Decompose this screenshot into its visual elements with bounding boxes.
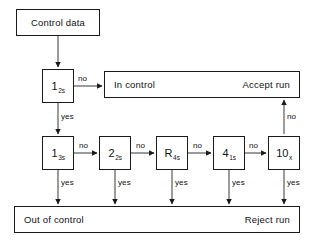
node-rule-4-1s: 41s	[213, 136, 245, 170]
node-in-control-accept-run: In control Accept run	[104, 71, 300, 98]
rule-1-3s-text: 13s	[52, 148, 65, 159]
rule-1-3s-base: 1	[52, 147, 58, 159]
edge-label-10-x-no: no	[287, 112, 296, 121]
rule-4-1s-text: 41s	[223, 148, 236, 159]
node-rule-r-4s: R4s	[156, 136, 188, 170]
node-rule-2-2s: 22s	[99, 136, 131, 170]
edge-label-r-4s-no: no	[193, 141, 202, 150]
rule-1-3s-sub: 3s	[58, 154, 65, 161]
out-of-control-label: Out of control	[24, 214, 84, 225]
edge-label-1-3s-yes: yes	[61, 178, 74, 187]
rule-1-2s-sub: 2s	[58, 87, 65, 94]
rule-4-1s-sub: 1s	[229, 154, 236, 161]
flowchart-canvas: Control data In control Accept run 12s 1…	[0, 0, 314, 248]
rule-r-4s-text: R4s	[165, 148, 180, 159]
edge-label-2-2s-no: no	[136, 141, 145, 150]
rule-4-1s-base: 4	[223, 147, 229, 159]
rule-1-2s-base: 1	[52, 80, 58, 92]
node-control-data: Control data	[16, 9, 100, 36]
node-rule-1-3s: 13s	[42, 136, 74, 170]
edge-label-4-1s-yes: yes	[232, 178, 245, 187]
rule-2-2s-base: 2	[109, 147, 115, 159]
edge-label-2-2s-yes: yes	[118, 178, 131, 187]
rule-10-x-sub: x	[289, 154, 292, 161]
edge-label-1-2s-no: no	[78, 74, 87, 83]
node-rule-10-x: 10x	[268, 136, 300, 170]
rule-2-2s-text: 22s	[109, 148, 122, 159]
edge-label-r-4s-yes: yes	[175, 178, 188, 187]
rule-r-4s-base: R	[165, 147, 173, 159]
node-rule-1-2s: 12s	[42, 69, 74, 103]
rule-r-4s-sub: 4s	[173, 154, 180, 161]
rule-10-x-base: 10	[276, 147, 288, 159]
edge-label-10-x-yes: yes	[287, 178, 300, 187]
node-out-of-control-reject-run: Out of control Reject run	[14, 206, 300, 233]
edge-label-4-1s-no: no	[249, 141, 258, 150]
rule-1-2s-text: 12s	[52, 81, 65, 92]
in-control-label: In control	[114, 79, 155, 90]
edge-label-1-3s-no: no	[79, 141, 88, 150]
edge-label-1-2s-yes: yes	[61, 112, 74, 121]
rule-10-x-text: 10x	[276, 148, 292, 159]
reject-run-label: Reject run	[245, 214, 290, 225]
rule-2-2s-sub: 2s	[115, 154, 122, 161]
accept-run-label: Accept run	[243, 79, 290, 90]
node-control-data-label: Control data	[31, 17, 85, 28]
